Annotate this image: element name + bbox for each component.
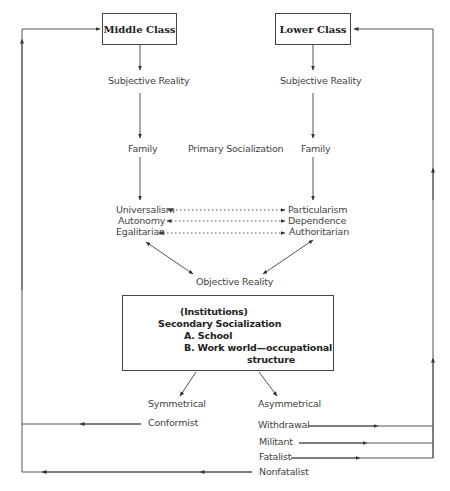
secondary-socialization-label: Secondary Socialization bbox=[158, 318, 281, 329]
middle-class-box: Middle Class bbox=[102, 13, 177, 45]
right-subjective-reality: Subjective Reality bbox=[280, 75, 362, 86]
institutions-label: (Institutions) bbox=[180, 306, 248, 317]
primary-socialization: Primary Socialization bbox=[188, 143, 283, 154]
arrow-egalitarian-objective bbox=[146, 242, 193, 274]
arrow-box-to-asymmetrical bbox=[259, 372, 277, 396]
structure-label: structure bbox=[247, 354, 295, 365]
work-world-label: B. Work world—occupational bbox=[184, 342, 332, 353]
trait-particularism: Particularism bbox=[288, 204, 347, 215]
outcome-withdrawal: Withdrawal bbox=[258, 419, 310, 430]
diagram-connectors bbox=[0, 0, 450, 491]
arrow-box-to-symmetrical bbox=[180, 372, 196, 396]
trait-egalitarian: Egalitarian bbox=[116, 226, 165, 237]
lower-class-box: Lower Class bbox=[275, 13, 351, 45]
middle-class-label: Middle Class bbox=[103, 24, 176, 35]
outcome-asymmetrical: Asymmetrical bbox=[258, 398, 321, 409]
school-label: A. School bbox=[184, 330, 232, 341]
institutions-box: (Institutions) Secondary Socialization A… bbox=[122, 295, 334, 371]
left-family: Family bbox=[128, 143, 157, 154]
outcome-symmetrical: Symmetrical bbox=[148, 398, 206, 409]
outcome-fatalist: Fatalist bbox=[259, 451, 291, 462]
objective-reality: Objective Reality bbox=[196, 276, 273, 287]
lower-class-label: Lower Class bbox=[276, 24, 350, 35]
trait-dependence: Dependence bbox=[288, 215, 346, 226]
outcome-nonfatalist: Nonfatalist bbox=[259, 466, 308, 477]
right-family: Family bbox=[301, 143, 330, 154]
trait-universalism: Universalism bbox=[116, 204, 175, 215]
outcome-militant: Militant bbox=[259, 436, 293, 447]
outcome-conformist: Conformist bbox=[148, 417, 198, 428]
left-subjective-reality: Subjective Reality bbox=[108, 75, 190, 86]
trait-autonomy: Autonomy bbox=[118, 215, 165, 226]
arrow-authoritarian-objective bbox=[263, 240, 313, 274]
trait-authoritarian: Authoritarian bbox=[289, 226, 349, 237]
